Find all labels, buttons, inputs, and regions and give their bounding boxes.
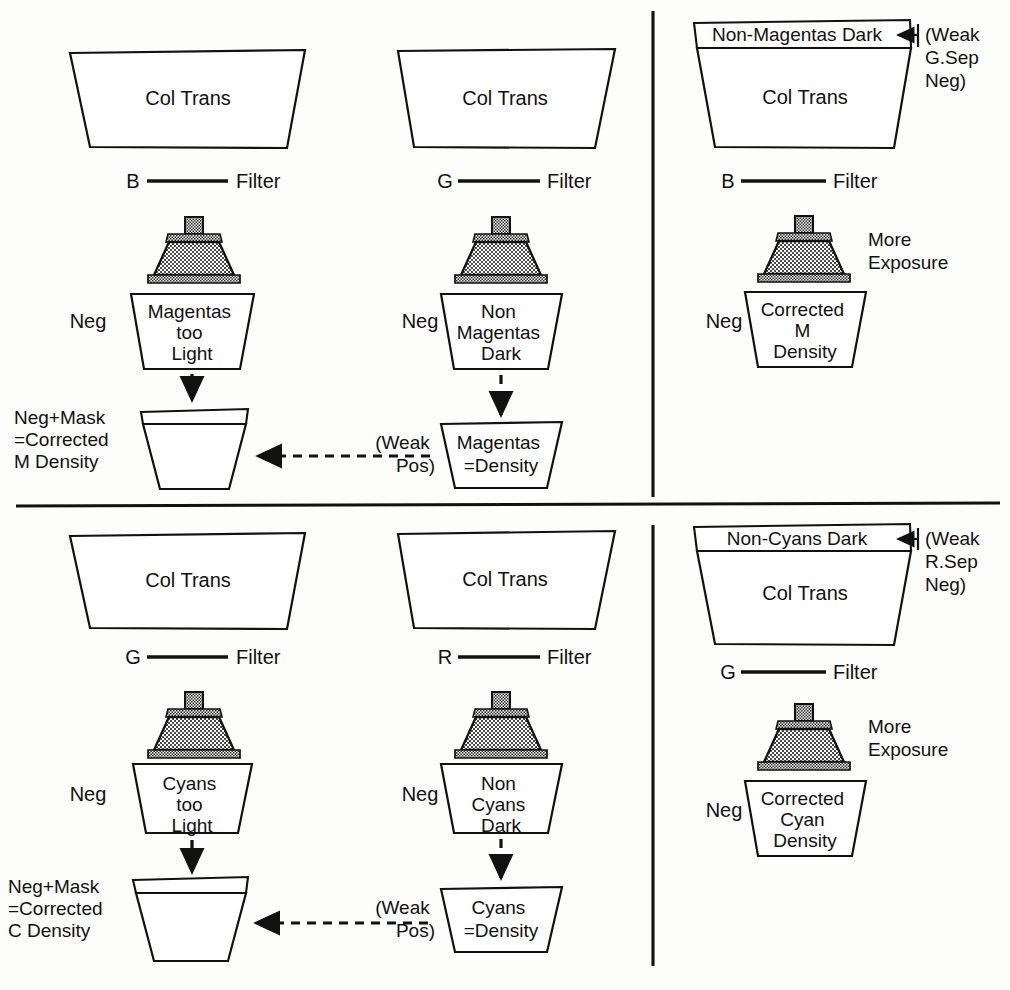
neg-label: Neg <box>70 783 107 805</box>
result-label: Neg+Mask =Corrected M Density <box>14 407 114 472</box>
filter-line-icon: G Filter <box>437 170 592 192</box>
column-c-mid: Col Trans R Filter Neg Non Cyans Dark Cy… <box>256 531 615 952</box>
result-stack <box>133 877 248 961</box>
svg-text:Filter: Filter <box>236 170 281 192</box>
column-c-left: Col Trans G Filter Neg Cyans too Light N… <box>8 533 305 961</box>
column-m-left: Col Trans B Filter Neg Magentas too Ligh… <box>14 50 305 489</box>
svg-text:Filter: Filter <box>833 661 878 683</box>
svg-text:G: G <box>720 661 736 683</box>
filter-line-icon: G Filter <box>125 646 281 668</box>
col-trans-label: Col Trans <box>762 86 848 108</box>
enlarger-icon <box>455 692 547 758</box>
svg-text:Filter: Filter <box>236 646 281 668</box>
svg-text:B: B <box>126 170 139 192</box>
svg-text:R: R <box>438 646 452 668</box>
svg-text:G: G <box>125 646 141 668</box>
result-trapezoid <box>143 424 246 489</box>
enlarger-icon <box>758 216 850 282</box>
column-m-mid: Col Trans G Filter Neg Non Magentas Dark… <box>258 49 615 488</box>
result-trapezoid <box>136 893 246 961</box>
filter-line-icon: B Filter <box>721 170 877 192</box>
more-exposure-label: More Exposure <box>868 716 948 760</box>
svg-text:G: G <box>437 170 453 192</box>
filter-line-icon: R Filter <box>438 646 592 668</box>
filter-line-icon: G Filter <box>720 661 878 683</box>
column-c-right: Non-Cyans Dark (Weak R.Sep Neg) Col Tran… <box>694 524 985 856</box>
horizontal-divider <box>16 503 1000 506</box>
col-trans-label: Col Trans <box>462 568 548 590</box>
weak-pos-label: (Weak Pos) <box>375 897 435 941</box>
more-exposure-label: More Exposure <box>868 229 948 273</box>
enlarger-icon <box>148 692 240 758</box>
neg-label: Neg <box>706 310 743 332</box>
svg-text:Filter: Filter <box>547 646 592 668</box>
neg-label: Neg <box>706 799 743 821</box>
separation-note: (Weak R.Sep Neg) <box>925 528 985 595</box>
separation-strip-label: Non-Magentas Dark <box>712 24 883 45</box>
separation-strip-label: Non-Cyans Dark <box>727 528 868 549</box>
weak-pos-label: (Weak Pos) <box>375 432 435 476</box>
neg-label: Neg <box>70 310 107 332</box>
svg-text:Filter: Filter <box>833 170 878 192</box>
neg-label: Neg <box>402 783 439 805</box>
separation-note: (Weak G.Sep Neg) <box>925 24 985 91</box>
diagram-sheet: Col Trans B Filter Neg Magentas too Ligh… <box>0 0 1010 990</box>
mask-strip <box>133 877 248 893</box>
svg-text:Filter: Filter <box>547 170 592 192</box>
result-stack <box>141 409 248 489</box>
enlarger-icon <box>758 704 850 770</box>
col-trans-label: Col Trans <box>462 87 548 109</box>
svg-text:B: B <box>721 170 734 192</box>
enlarger-icon <box>148 217 240 283</box>
filter-line-icon: B Filter <box>126 170 280 192</box>
enlarger-icon <box>455 217 547 283</box>
col-trans-label: Col Trans <box>762 582 848 604</box>
neg-label: Neg <box>402 310 439 332</box>
column-m-right: Non-Magentas Dark (Weak G.Sep Neg) Col T… <box>694 20 985 367</box>
mask-strip <box>141 409 248 424</box>
col-trans-label: Col Trans <box>145 87 231 109</box>
col-trans-label: Col Trans <box>145 569 231 591</box>
result-label: Neg+Mask =Corrected C Density <box>8 876 108 941</box>
